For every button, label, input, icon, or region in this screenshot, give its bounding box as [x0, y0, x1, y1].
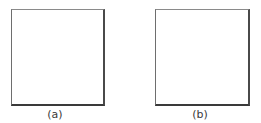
panel-b-caption: (b) [180, 108, 220, 121]
panel-a-square [11, 9, 105, 106]
panel-a-caption: (a) [35, 108, 75, 121]
panel-b-square [155, 9, 250, 106]
